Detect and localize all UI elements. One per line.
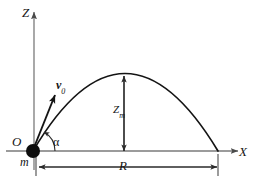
max-height-label: Zm [113, 104, 125, 118]
initial-velocity-label: v0 [56, 79, 65, 94]
velocity-subscript: 0 [61, 87, 65, 96]
x-axis-label: X [239, 145, 247, 158]
projectile-motion-figure: Z X O m α R v0 Zm [0, 0, 253, 188]
origin-label: O [12, 135, 21, 148]
range-label: R [119, 159, 127, 172]
mass-label: m [20, 156, 29, 168]
z-axis-label: Z [22, 6, 29, 19]
launch-angle-label: α [53, 136, 59, 148]
max-height-subscript: m [119, 111, 125, 120]
